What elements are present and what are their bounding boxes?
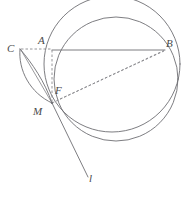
line-label-l: l xyxy=(89,173,92,184)
point-label-M: M xyxy=(33,106,42,117)
segment-FB-dashed xyxy=(60,51,164,99)
point-label-A: A xyxy=(38,35,45,46)
segment-CM xyxy=(21,50,52,103)
segment-M-to-l xyxy=(52,103,88,177)
point-label-B: B xyxy=(166,38,173,49)
second-circle xyxy=(44,0,180,132)
point-label-F: F xyxy=(55,85,62,96)
main-circle xyxy=(54,17,178,141)
vertex-dot-M xyxy=(51,102,53,104)
geometry-figure: A B C F M l xyxy=(0,0,184,205)
point-label-C: C xyxy=(7,43,14,54)
